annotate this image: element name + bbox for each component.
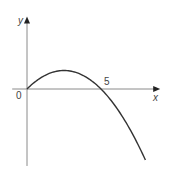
curve-series: [27, 71, 145, 161]
x-axis-label: x: [152, 92, 159, 103]
y-axis-arrow-icon: [24, 16, 30, 23]
x-tick-labels: 5: [104, 76, 110, 87]
chart: y x 0 5: [0, 0, 170, 176]
x-tick-label: 5: [104, 76, 110, 87]
y-axis-label: y: [17, 15, 24, 26]
origin-label: 0: [16, 90, 22, 101]
